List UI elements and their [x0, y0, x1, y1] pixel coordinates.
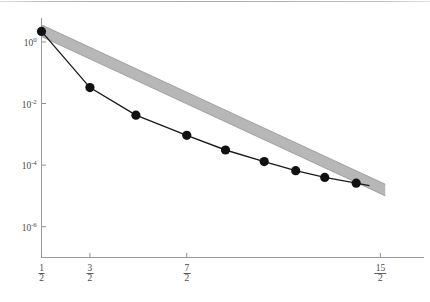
y-tick-mantissa: 10 — [22, 161, 32, 171]
x-tick-numerator: 7 — [183, 264, 190, 274]
x-tick-label-0: 12 — [38, 264, 45, 285]
data-point-1 — [85, 83, 94, 92]
chart-canvas — [0, 0, 430, 302]
x-tick-label-2: 72 — [183, 264, 190, 285]
x-tick-denominator: 2 — [87, 273, 94, 284]
y-tick-exponent: 0 — [33, 36, 36, 43]
x-tick-label-1: 32 — [87, 264, 94, 285]
y-tick-label-3: 10-6 — [22, 221, 37, 233]
x-tick-denominator: 2 — [375, 273, 387, 284]
y-axis — [42, 18, 47, 258]
data-point-5 — [260, 157, 269, 166]
data-point-7 — [320, 173, 329, 182]
y-tick-mantissa: 10 — [22, 100, 32, 110]
data-point-8 — [352, 179, 361, 188]
x-tick-denominator: 2 — [38, 273, 45, 284]
x-tick-denominator: 2 — [183, 273, 190, 284]
x-tick-label-3: 152 — [375, 264, 387, 285]
data-point-3 — [182, 131, 191, 140]
data-point-0 — [37, 27, 46, 36]
x-axis — [42, 253, 425, 258]
data-point-2 — [131, 111, 140, 120]
y-tick-mantissa: 10 — [22, 223, 32, 233]
x-tick-numerator: 1 — [38, 264, 45, 274]
x-tick-numerator: 15 — [375, 264, 387, 274]
y-tick-exponent: -2 — [31, 97, 36, 104]
data-point-6 — [291, 166, 300, 175]
convergence-chart-figure: 10010-210-410-6 123272152 — [0, 0, 430, 302]
y-tick-label-2: 10-4 — [22, 159, 37, 171]
y-tick-exponent: -6 — [31, 221, 36, 228]
y-tick-label-0: 100 — [24, 36, 37, 48]
y-tick-exponent: -4 — [31, 159, 36, 166]
data-point-4 — [221, 145, 230, 154]
fit-band — [42, 25, 386, 196]
y-tick-mantissa: 10 — [24, 38, 34, 48]
x-tick-numerator: 3 — [87, 264, 94, 274]
y-tick-label-1: 10-2 — [22, 97, 37, 109]
